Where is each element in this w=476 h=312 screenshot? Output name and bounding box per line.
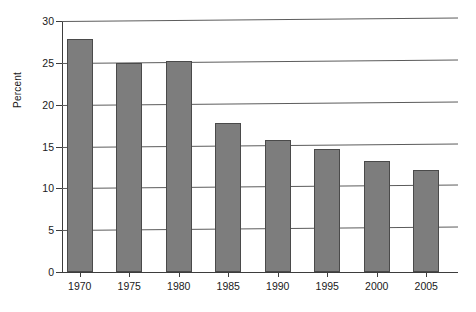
bar [215,123,241,272]
y-tick-label: 20 [0,100,54,111]
x-tick-mark [426,272,427,277]
x-tick-mark [129,272,130,277]
y-tick-label: 30 [0,16,54,27]
x-tick-label: 1995 [305,281,349,293]
bar [265,140,291,272]
y-tick-label: 25 [0,58,54,69]
bar-chart: Percent 051015202530 1970197519801985199… [0,0,476,312]
x-tick-label: 2000 [355,281,399,293]
y-tick-label: 0 [0,267,54,278]
x-tick-label: 1980 [157,281,201,293]
x-tick-mark [80,272,81,277]
x-tick-mark [377,272,378,277]
x-tick-mark [179,272,180,277]
x-tick-label: 1970 [58,281,102,293]
y-tick-label: 10 [0,183,54,194]
x-tick-label: 1975 [107,281,151,293]
x-tick-mark [278,272,279,277]
bars-group [62,21,458,272]
bar [413,170,439,272]
bar [67,39,93,272]
x-tick-mark [228,272,229,277]
x-tick-label: 2005 [404,281,448,293]
y-tick-label: 5 [0,225,54,236]
bar [116,63,142,272]
y-tick-label: 15 [0,142,54,153]
bar [314,149,340,272]
plot-area [62,21,458,272]
bar [166,61,192,272]
x-tick-label: 1985 [206,281,250,293]
bar [364,161,390,272]
x-tick-label: 1990 [256,281,300,293]
x-tick-mark [327,272,328,277]
gridline [62,272,458,273]
